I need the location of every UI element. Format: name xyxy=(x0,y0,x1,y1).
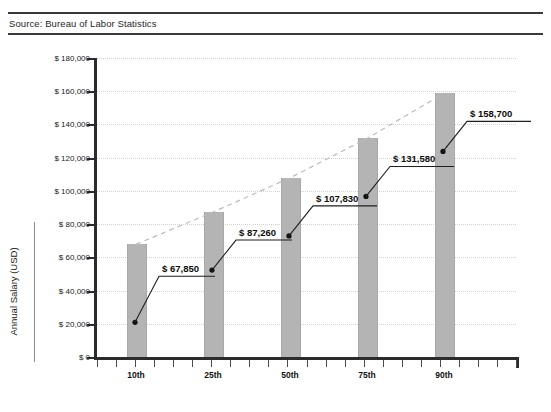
source-label: Source: Bureau of Labor Statistics xyxy=(8,14,543,33)
x-axis-tick xyxy=(249,360,250,367)
x-axis-tick xyxy=(97,360,98,367)
gridline xyxy=(97,91,516,92)
x-axis-tick xyxy=(459,360,460,367)
callout-leader-line xyxy=(443,121,531,151)
x-axis-tick xyxy=(307,360,308,367)
x-axis-tick xyxy=(173,360,174,367)
y-axis-title: Annual Salary (USD) xyxy=(8,217,19,367)
data-label: $ 158,700 xyxy=(470,108,512,119)
data-label: $ 87,260 xyxy=(239,227,276,238)
y-axis-tick-label: $ 60,000 xyxy=(59,253,90,262)
y-axis-tick-label: $ 40,000 xyxy=(59,286,90,295)
y-axis-tick-label: $ 120,000 xyxy=(54,153,90,162)
x-axis-tick xyxy=(478,360,479,367)
bar xyxy=(127,244,147,357)
x-axis-tick xyxy=(497,360,498,367)
x-axis-tick xyxy=(154,360,155,367)
bar xyxy=(281,178,301,357)
x-axis-tick xyxy=(364,360,365,367)
y-axis-title-wrap: Annual Salary (USD) xyxy=(0,224,20,384)
data-label: $ 67,850 xyxy=(162,263,199,274)
y-axis-tick-label: $ 80,000 xyxy=(59,220,90,229)
x-axis-tick xyxy=(268,360,269,367)
x-axis-tick-label: 50th xyxy=(281,370,298,380)
x-axis-tick xyxy=(440,360,441,367)
x-axis-tick xyxy=(326,360,327,367)
y-axis-line xyxy=(94,58,97,359)
x-axis-tick xyxy=(230,360,231,367)
y-axis-tick-label: $ 0 xyxy=(79,353,90,362)
chart-page: Source: Bureau of Labor Statistics $ 0$ … xyxy=(0,0,551,412)
x-axis-tick xyxy=(383,360,384,367)
callout-leader-line xyxy=(212,240,292,270)
x-axis-tick-label: 25th xyxy=(204,370,221,380)
x-axis-tick xyxy=(345,360,346,367)
x-axis-tick-label: 75th xyxy=(358,370,375,380)
y-axis-tick-label: $ 180,000 xyxy=(54,54,90,63)
data-label: $ 131,580 xyxy=(393,153,435,164)
y-axis-tick-label: $ 140,000 xyxy=(54,120,90,129)
y-axis-tick-label: $ 20,000 xyxy=(59,319,90,328)
y-axis-tick-label: $ 160,000 xyxy=(54,87,90,96)
callout-leader-line xyxy=(135,276,215,322)
source-block: Source: Bureau of Labor Statistics xyxy=(8,12,543,35)
y-axis-title-rule xyxy=(34,222,35,362)
x-axis-tick xyxy=(192,360,193,367)
x-axis-tick xyxy=(135,360,136,367)
bar xyxy=(358,138,378,357)
bar xyxy=(435,93,455,357)
bar xyxy=(204,212,224,357)
x-axis-tick xyxy=(516,360,517,367)
source-rule-bottom xyxy=(8,33,543,35)
x-axis-tick xyxy=(421,360,422,367)
x-axis-tick-label: 10th xyxy=(127,370,144,380)
data-label: $ 107,830 xyxy=(316,193,358,204)
x-axis-tick xyxy=(287,360,288,367)
gridline xyxy=(97,58,516,59)
x-axis-tick xyxy=(402,360,403,367)
x-axis-tick xyxy=(116,360,117,367)
x-axis-tick xyxy=(211,360,212,367)
y-axis-tick-label: $ 100,000 xyxy=(54,186,90,195)
x-axis-tick-label: 90th xyxy=(435,370,452,380)
chart-container: $ 0$ 20,000$ 40,000$ 60,000$ 80,000$ 100… xyxy=(0,46,551,412)
